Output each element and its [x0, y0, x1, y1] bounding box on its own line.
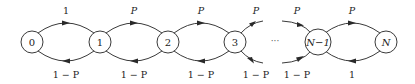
edge-n-to-n-minus-1	[325, 51, 380, 61]
label-2-to-1: 1 − P	[121, 69, 148, 80]
node-0-label: 0	[29, 37, 35, 48]
arrowhead-2-to-1	[130, 59, 138, 64]
label-n-minus-1-to-ellipsis: 1 − P	[284, 69, 311, 80]
label-3-to-ellipsis: P	[252, 5, 260, 16]
label-n-to-n-minus-1: 1	[349, 69, 355, 80]
arrowhead-1-to-2	[130, 21, 138, 26]
node-n-minus-1-label: N−1	[305, 37, 330, 48]
edge-0-to-1	[38, 23, 94, 33]
label-1-to-2: P	[130, 5, 138, 16]
edge-2-to-3	[174, 23, 229, 33]
arrowhead-n-to-n-minus-1	[348, 59, 356, 64]
markov-chain-diagram: 0 1 2 3 ··· N−1 N 1 P P P P P 1 − P 1 − …	[0, 0, 415, 84]
edge-3-to-2	[174, 51, 229, 61]
node-3-label: 3	[232, 37, 238, 48]
edge-2-to-1	[106, 51, 162, 61]
arrowhead-1-to-0	[62, 59, 70, 64]
node-3: 3	[224, 31, 246, 53]
arrowhead-n-minus-1-to-n	[348, 21, 356, 26]
node-0: 0	[21, 31, 43, 53]
node-n-label: N	[381, 37, 392, 48]
label-ellipsis-to-n-minus-1: P	[293, 5, 301, 16]
node-1: 1	[89, 31, 111, 53]
arrowhead-n-minus-1-to-ellipsis	[296, 56, 304, 62]
forward-edges	[38, 21, 380, 34]
ellipsis: ···	[271, 36, 280, 46]
label-2-to-3: P	[197, 5, 205, 16]
edge-n-minus-1-to-n	[325, 23, 380, 33]
node-n: N	[375, 31, 397, 53]
arrowhead-0-to-1	[62, 21, 70, 26]
forward-labels: 1 P P P P P	[63, 5, 356, 16]
label-n-minus-1-to-n: P	[348, 5, 356, 16]
label-0-to-1: 1	[63, 5, 69, 16]
backward-edges	[38, 51, 380, 64]
edge-n-minus-1-to-ellipsis	[282, 51, 311, 63]
label-1-to-0: 1 − P	[53, 69, 80, 80]
node-1-label: 1	[97, 37, 103, 48]
edge-1-to-2	[106, 23, 162, 33]
node-n-minus-1: N−1	[305, 29, 331, 55]
edge-1-to-0	[38, 51, 94, 61]
label-ellipsis-to-3: 1 − P	[243, 69, 270, 80]
arrowhead-3-to-2	[197, 59, 205, 64]
arrowhead-ellipsis-to-3	[247, 57, 254, 64]
node-2-label: 2	[165, 37, 171, 48]
arrowhead-2-to-3	[197, 21, 205, 26]
label-3-to-2: 1 − P	[188, 69, 215, 80]
edge-ellipsis-to-n-minus-1	[282, 21, 311, 33]
backward-labels: 1 − P 1 − P 1 − P 1 − P 1 − P 1	[53, 69, 355, 80]
node-2: 2	[157, 31, 179, 53]
